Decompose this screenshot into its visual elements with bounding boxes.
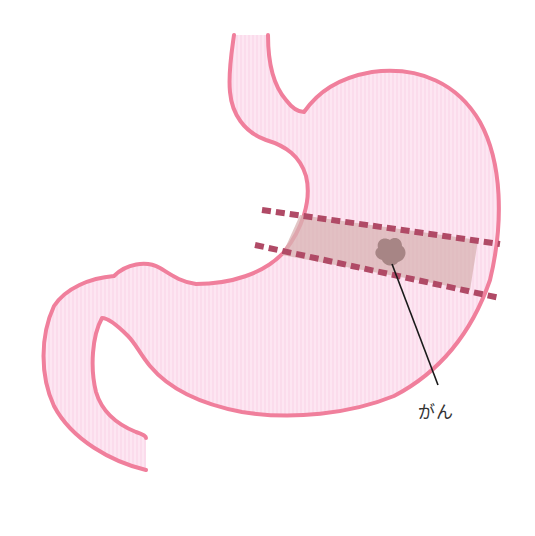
stomach-diagram (0, 0, 535, 536)
tumor-label: がん (418, 398, 454, 423)
